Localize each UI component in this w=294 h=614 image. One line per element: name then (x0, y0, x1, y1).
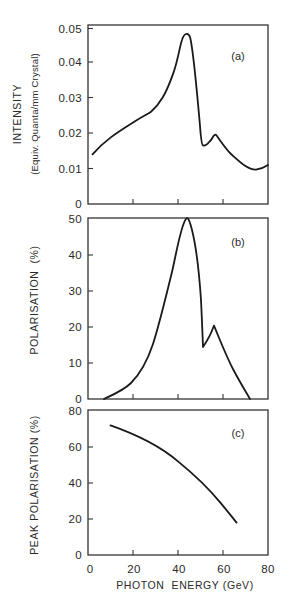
panel-b-ytick-label: 0 (75, 393, 82, 405)
panel-b-polarisation-curve (104, 218, 250, 399)
panel-c-ytick-label: 80 (69, 405, 82, 417)
panel-c-xtick-label: 60 (217, 563, 230, 575)
panel-c: 80 60 40 20 0 0 20 40 60 80 PHOTON ENERG… (28, 405, 275, 591)
panel-a-tag: (a) (231, 50, 244, 62)
panel-c-tag: (c) (232, 427, 245, 439)
panel-a: 0.05 0.04 0.03 0.02 0.01 0 INTENSITY (Eq… (11, 23, 268, 211)
panel-b-ytick-label: 10 (69, 357, 82, 369)
panel-b: 50 40 30 20 10 0 POLARISATION (%) (b) (28, 213, 268, 405)
panel-b-ytick-label: 50 (69, 213, 82, 225)
panel-a-ytick-label: 0.05 (58, 23, 82, 35)
panel-a-ytick-label: 0.01 (58, 163, 82, 175)
x-axis-label: PHOTON ENERGY (GeV) (116, 579, 254, 591)
panel-a-ytick-label: 0.04 (58, 56, 82, 68)
panel-a-ylabel: INTENSITY (11, 84, 23, 144)
panel-c-xtick-label: 20 (127, 563, 140, 575)
panel-c-ytick-label: 0 (75, 549, 82, 561)
panel-a-ytick-label: 0 (75, 198, 82, 210)
panel-c-ylabel: PEAK POLARISATION (%) (28, 415, 40, 555)
panel-b-ytick-label: 20 (69, 321, 82, 333)
panel-a-ytick-label: 0.03 (58, 92, 82, 104)
panel-b-tag: (b) (231, 236, 244, 248)
panel-b-ylabel: POLARISATION (%) (28, 245, 40, 354)
panel-c-xtick-label: 40 (172, 563, 185, 575)
panel-c-ytick-label: 40 (69, 477, 82, 489)
figure: 0.05 0.04 0.03 0.02 0.01 0 INTENSITY (Eq… (0, 0, 294, 614)
panel-c-xtick-label: 80 (261, 563, 274, 575)
panel-c-ytick-label: 20 (69, 513, 82, 525)
panel-c-ytick-label: 60 (69, 441, 82, 453)
panel-c-peak-polarisation-curve (111, 425, 237, 522)
panel-b-ytick-label: 30 (69, 285, 82, 297)
panel-b-ytick-label: 40 (69, 249, 82, 261)
panel-a-ylabel-units: (Equiv. Quanta/mm Crystal) (29, 53, 40, 175)
panel-a-ytick-label: 0.02 (58, 127, 82, 139)
panel-c-xtick-label: 0 (87, 563, 94, 575)
